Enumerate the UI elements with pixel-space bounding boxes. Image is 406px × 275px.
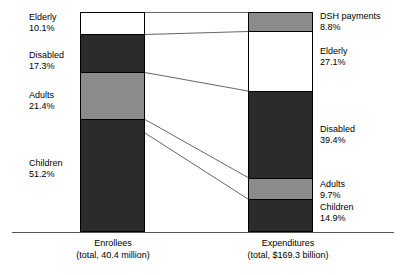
label-percent: 21.4% (29, 101, 55, 112)
label-enrollees-children: Children 51.2% (29, 158, 63, 179)
label-enrollees-elderly: Elderly 10.1% (29, 12, 57, 33)
label-expenditures-elderly: Elderly 27.1% (320, 46, 348, 67)
label-percent: 17.3% (29, 61, 64, 72)
caption-expenditures: Expenditures (total, $169.3 billion) (198, 238, 378, 261)
caption-enrollees: Enrollees (total, 40.4 million) (32, 238, 194, 261)
label-name: Adults (320, 179, 345, 190)
segment-expenditures-children (248, 199, 313, 232)
caption-line-2: (total, $169.3 billion) (198, 250, 378, 262)
caption-line-1: Expenditures (198, 238, 378, 250)
segment-enrollees-disabled (80, 34, 145, 72)
segment-expenditures-dsh-payments (248, 12, 313, 31)
label-percent: 10.1% (29, 23, 57, 34)
axis-baseline (12, 232, 394, 233)
connector-line-4 (145, 133, 248, 199)
caption-line-2: (total, 40.4 million) (32, 250, 194, 262)
label-expenditures-children: Children 14.9% (320, 202, 354, 223)
segment-enrollees-elderly (80, 12, 145, 34)
label-percent: 8.8% (320, 22, 381, 33)
label-name: Adults (29, 90, 55, 101)
label-name: DSH payments (320, 11, 381, 22)
caption-line-1: Enrollees (32, 238, 194, 250)
label-expenditures-adults: Adults 9.7% (320, 179, 345, 200)
segment-expenditures-elderly (248, 31, 313, 91)
bar-expenditures (248, 12, 313, 232)
label-name: Children (320, 202, 354, 213)
label-name: Children (29, 158, 63, 169)
segment-expenditures-disabled (248, 91, 313, 178)
label-percent: 51.2% (29, 169, 63, 180)
bar-enrollees (80, 12, 145, 232)
segment-expenditures-adults (248, 178, 313, 199)
label-percent: 27.1% (320, 57, 348, 68)
label-enrollees-disabled: Disabled 17.3% (29, 50, 64, 71)
stacked-bar-chart: Elderly 10.1% Disabled 17.3% Adults 21.4… (0, 0, 406, 275)
label-enrollees-adults: Adults 21.4% (29, 90, 55, 111)
segment-enrollees-children (80, 119, 145, 232)
label-percent: 9.7% (320, 190, 345, 201)
label-name: Disabled (320, 124, 355, 135)
label-expenditures-dsh-payments: DSH payments 8.8% (320, 11, 381, 32)
connector-line-1 (145, 32, 248, 35)
label-percent: 14.9% (320, 213, 354, 224)
label-name: Elderly (320, 46, 348, 57)
label-expenditures-disabled: Disabled 39.4% (320, 124, 355, 145)
connector-line-3 (145, 120, 248, 178)
label-name: Elderly (29, 12, 57, 23)
segment-enrollees-adults (80, 72, 145, 119)
connector-line-2 (145, 73, 248, 92)
label-name: Disabled (29, 50, 64, 61)
label-percent: 39.4% (320, 135, 355, 146)
